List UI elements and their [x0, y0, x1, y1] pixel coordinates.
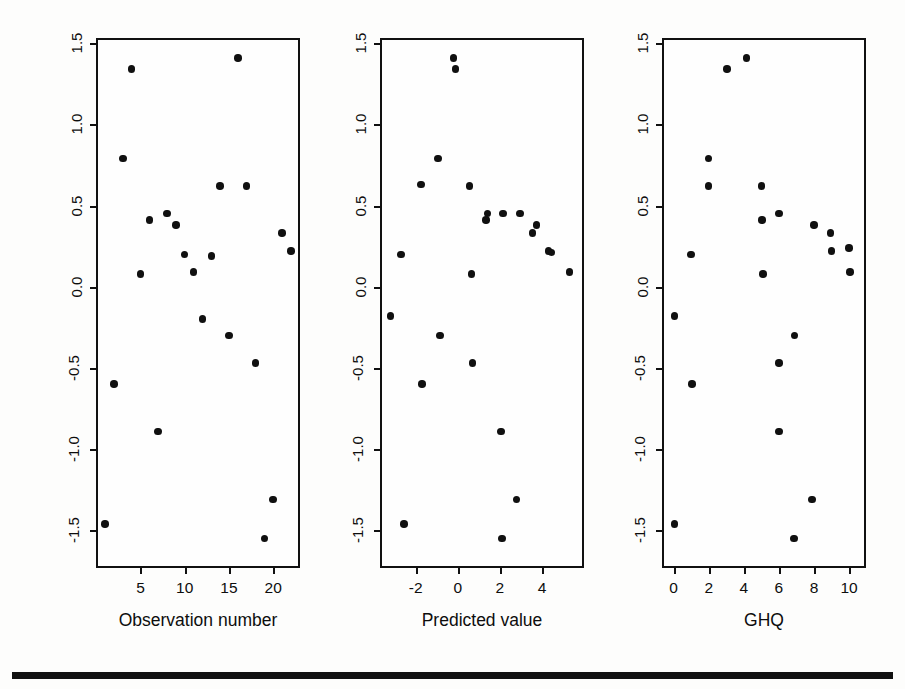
x-axis-tick — [542, 566, 544, 574]
scatter-point — [181, 251, 189, 259]
plot-area-panel-3: 1.51.00.50.0-0.5-1.0-1.50246810 — [662, 38, 866, 568]
scatter-point — [723, 65, 731, 73]
x-axis-label-panel-3: GHQ — [662, 610, 866, 631]
scatter-point — [434, 155, 442, 163]
scatter-point — [516, 210, 524, 218]
y-axis-tick-label: -0.5 — [66, 355, 83, 381]
scatter-point — [436, 332, 444, 340]
scatter-point — [846, 268, 854, 276]
y-axis-tick — [90, 368, 98, 370]
scatter-point — [128, 65, 136, 73]
x-axis-tick — [185, 566, 187, 574]
scatter-point — [484, 210, 492, 218]
x-axis-tick-label: 0 — [453, 579, 462, 597]
y-axis-tick — [90, 287, 98, 289]
scatter-point — [261, 535, 269, 543]
y-axis-tick — [374, 124, 382, 126]
scatter-point — [269, 496, 277, 504]
x-axis-tick — [709, 566, 711, 574]
y-axis-tick — [656, 449, 664, 451]
scatter-point — [759, 270, 767, 278]
y-axis-tick — [656, 530, 664, 532]
scatter-point — [172, 221, 180, 229]
x-axis-tick — [500, 566, 502, 574]
plot-area-panel-1: 1.51.00.50.0-0.5-1.0-1.55101520 — [96, 38, 300, 568]
x-axis-label-panel-1: Observation number — [96, 610, 300, 631]
scatter-point — [775, 428, 783, 436]
scatter-point — [775, 210, 783, 218]
scatter-point — [705, 182, 713, 190]
y-axis-tick — [374, 287, 382, 289]
y-axis-tick-label: 0.0 — [352, 276, 369, 297]
scatter-point — [146, 216, 154, 224]
y-axis-tick — [656, 368, 664, 370]
y-axis-tick — [374, 206, 382, 208]
x-axis-tick — [779, 566, 781, 574]
scatter-point — [791, 332, 799, 340]
scatter-point — [529, 229, 537, 237]
scatter-point — [671, 312, 679, 320]
y-axis-tick-label: 0.0 — [634, 276, 651, 297]
x-axis-tick — [744, 566, 746, 574]
y-axis-tick-label: -1.0 — [350, 436, 367, 462]
x-axis-tick — [273, 566, 275, 574]
plot-area-panel-2: 1.51.00.50.0-0.5-1.0-1.5-2024 — [380, 38, 584, 568]
y-axis-tick — [656, 124, 664, 126]
scatter-point — [497, 428, 505, 436]
x-axis-tick-label: 15 — [220, 579, 237, 597]
y-axis-tick-label: 0.5 — [634, 195, 651, 216]
scatter-point — [154, 428, 162, 436]
scatter-point — [808, 496, 816, 504]
y-axis-tick-label: 1.0 — [634, 114, 651, 135]
panel-observation-number: Standardized deviance residual 1.51.00.5… — [6, 0, 306, 660]
y-axis-tick-label: 1.5 — [68, 33, 85, 54]
scatter-point — [499, 210, 507, 218]
y-axis-tick-label: -0.5 — [350, 355, 367, 381]
scatter-point — [278, 229, 286, 237]
scatter-point — [533, 221, 541, 229]
y-axis-tick — [374, 368, 382, 370]
scatter-point — [466, 182, 474, 190]
y-axis-tick — [374, 43, 382, 45]
x-axis-tick-label: 4 — [740, 579, 749, 597]
scatter-point — [110, 380, 118, 388]
y-axis-tick-label: 0.0 — [68, 276, 85, 297]
scatter-point — [234, 54, 242, 62]
scatter-point — [400, 520, 408, 528]
scatter-point — [225, 332, 233, 340]
scatter-point — [498, 535, 506, 543]
y-axis-tick — [90, 449, 98, 451]
y-axis-tick-label: -0.5 — [632, 355, 649, 381]
x-axis-tick-label: 2 — [496, 579, 505, 597]
scatter-point — [119, 155, 127, 163]
scatter-point — [688, 380, 696, 388]
scatter-point — [417, 181, 425, 189]
x-axis-tick — [814, 566, 816, 574]
residual-diagnostics-figure: Standardized deviance residual 1.51.00.5… — [0, 0, 905, 689]
scatter-point — [243, 182, 251, 190]
x-axis-tick — [140, 566, 142, 574]
x-axis-label-panel-2: Predicted value — [380, 610, 584, 631]
y-axis-tick-label: -1.0 — [66, 436, 83, 462]
y-axis-tick — [656, 287, 664, 289]
y-axis-tick-label: 0.5 — [352, 195, 369, 216]
y-axis-tick — [90, 43, 98, 45]
scatter-point — [513, 496, 521, 504]
panel-predicted-value: Standardized deviance residual 1.51.00.5… — [290, 0, 590, 660]
y-axis-tick-label: 0.5 — [68, 195, 85, 216]
x-axis-tick-label: 10 — [176, 579, 193, 597]
scatter-point — [101, 520, 109, 528]
x-axis-tick-label: 6 — [775, 579, 784, 597]
scatter-point — [216, 182, 224, 190]
scatter-point — [387, 312, 395, 320]
y-axis-tick — [90, 124, 98, 126]
y-axis-tick-label: -1.5 — [66, 517, 83, 543]
x-axis-tick-label: 20 — [265, 579, 282, 597]
scatter-point — [810, 221, 818, 229]
y-axis-tick — [90, 206, 98, 208]
scatter-point — [163, 210, 171, 218]
y-axis-tick-label: 1.5 — [634, 33, 651, 54]
scatter-point — [418, 380, 426, 388]
y-axis-tick-label: -1.0 — [632, 436, 649, 462]
y-axis-tick-label: 1.0 — [352, 114, 369, 135]
